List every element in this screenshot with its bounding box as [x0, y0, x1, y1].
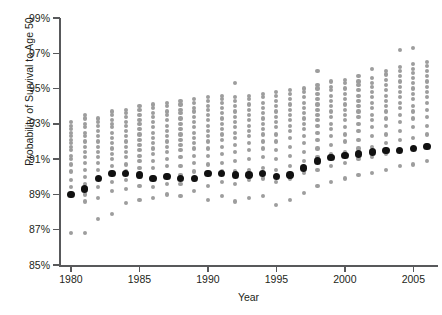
- observation-data-point: [315, 108, 319, 112]
- observation-data-point: [124, 187, 128, 191]
- mean-data-point: [369, 148, 376, 155]
- observation-data-point: [356, 109, 360, 113]
- mean-data-point: [67, 191, 74, 198]
- observation-data-point: [165, 150, 169, 154]
- observation-data-point: [315, 146, 319, 150]
- y-tick-label: 97%: [0, 48, 50, 59]
- observation-data-point: [425, 108, 429, 112]
- observation-data-point: [220, 101, 224, 105]
- mean-data-point: [355, 150, 362, 157]
- observation-data-point: [315, 131, 319, 135]
- observation-data-point: [165, 145, 169, 149]
- observation-data-point: [220, 122, 224, 126]
- observation-data-point: [69, 154, 73, 158]
- observation-data-point: [302, 150, 306, 154]
- observation-data-point: [192, 161, 196, 165]
- observation-data-point: [110, 212, 114, 216]
- observation-data-point: [315, 102, 319, 106]
- observation-data-point: [425, 132, 429, 136]
- observation-data-point: [398, 101, 402, 105]
- observation-data-point: [220, 194, 224, 198]
- observation-data-point: [137, 108, 141, 112]
- observation-data-point: [384, 78, 388, 82]
- y-tick-label: 87%: [0, 224, 50, 235]
- observation-data-point: [83, 192, 87, 196]
- y-tick-label: 99%: [0, 13, 50, 24]
- observation-data-point: [343, 161, 347, 165]
- observation-data-point: [343, 139, 347, 143]
- observation-data-point: [384, 132, 388, 136]
- observation-data-point: [384, 109, 388, 113]
- observation-data-point: [178, 122, 182, 126]
- observation-data-point: [398, 79, 402, 83]
- observation-data-point: [206, 139, 210, 143]
- observation-data-point: [356, 94, 360, 98]
- observation-data-point: [261, 132, 265, 136]
- observation-data-point: [83, 168, 87, 172]
- x-tick-label: 2000: [320, 274, 370, 285]
- observation-data-point: [315, 113, 319, 117]
- observation-data-point: [425, 79, 429, 83]
- observation-data-point: [233, 199, 237, 203]
- observation-data-point: [110, 146, 114, 150]
- observation-data-point: [261, 92, 265, 96]
- observation-data-point: [384, 116, 388, 120]
- observation-data-point: [398, 48, 402, 52]
- observation-data-point: [261, 101, 265, 105]
- observation-data-point: [261, 176, 265, 180]
- observation-data-point: [302, 191, 306, 195]
- observation-data-point: [178, 143, 182, 147]
- observation-data-point: [151, 102, 155, 106]
- observation-data-point: [165, 109, 169, 113]
- observation-data-point: [356, 157, 360, 161]
- observation-data-point: [137, 113, 141, 117]
- observation-data-point: [178, 132, 182, 136]
- y-tick-label: 95%: [0, 83, 50, 94]
- observation-data-point: [137, 138, 141, 142]
- observation-data-point: [192, 146, 196, 150]
- x-axis-title: Year: [59, 292, 438, 303]
- x-tick-label: 1990: [183, 274, 233, 285]
- x-tick-label: 1995: [251, 274, 301, 285]
- observation-data-point: [137, 166, 141, 170]
- observation-data-point: [137, 122, 141, 126]
- observation-data-point: [69, 162, 73, 166]
- observation-data-point: [83, 116, 87, 120]
- observation-data-point: [343, 102, 347, 106]
- observation-data-point: [110, 109, 114, 113]
- observation-data-point: [384, 168, 388, 172]
- observation-data-point: [398, 106, 402, 110]
- observation-data-point: [315, 168, 319, 172]
- observation-data-point: [315, 83, 319, 87]
- observation-data-point: [315, 69, 319, 73]
- observation-data-point: [206, 146, 210, 150]
- mean-data-point: [204, 170, 211, 177]
- observation-data-point: [178, 194, 182, 198]
- observation-data-point: [206, 162, 210, 166]
- x-tick-mark: [413, 266, 414, 272]
- observation-data-point: [425, 64, 429, 68]
- observation-data-point: [356, 122, 360, 126]
- observation-data-point: [165, 139, 169, 143]
- observation-data-point: [83, 139, 87, 143]
- observation-data-point: [398, 138, 402, 142]
- observation-data-point: [343, 78, 347, 82]
- observation-data-point: [220, 116, 224, 120]
- observation-data-point: [302, 159, 306, 163]
- observation-data-point: [69, 145, 73, 149]
- observation-data-point: [124, 145, 128, 149]
- observation-data-point: [356, 115, 360, 119]
- observation-data-point: [165, 182, 169, 186]
- observation-data-point: [261, 146, 265, 150]
- observation-data-point: [220, 94, 224, 98]
- mean-data-point: [136, 171, 143, 178]
- observation-data-point: [425, 115, 429, 119]
- observation-data-point: [165, 129, 169, 133]
- observation-data-point: [247, 108, 251, 112]
- observation-data-point: [398, 90, 402, 94]
- observation-data-point: [247, 124, 251, 128]
- observation-data-point: [261, 122, 265, 126]
- observation-data-point: [137, 104, 141, 108]
- observation-data-point: [261, 127, 265, 131]
- observation-data-point: [220, 106, 224, 110]
